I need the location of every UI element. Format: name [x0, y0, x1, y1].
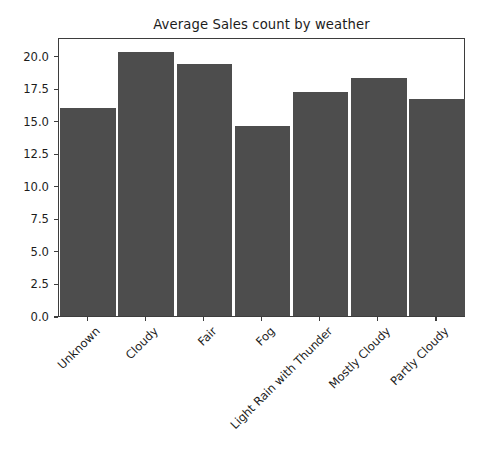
x-tick-label: Unknown — [55, 324, 103, 372]
x-tick-mark — [145, 317, 146, 321]
x-tick-mark — [319, 317, 320, 321]
x-tick-mark — [377, 317, 378, 321]
x-tick-mark — [87, 317, 88, 321]
chart-figure: Average Sales count by weather 0.02.55.0… — [0, 0, 486, 451]
x-tick-mark — [435, 317, 436, 321]
x-tick-mark — [203, 317, 204, 321]
x-tick-label: Light Rain with Thunder — [228, 324, 336, 432]
x-tick-label: Fog — [253, 324, 278, 349]
x-tick-label: Partly Cloudy — [388, 324, 452, 388]
x-tick-label: Mostly Cloudy — [326, 324, 393, 391]
x-tick-label: Cloudy — [123, 324, 161, 362]
x-axis: UnknownCloudyFairFogLight Rain with Thun… — [0, 0, 486, 451]
x-tick-label: Fair — [195, 324, 220, 349]
x-tick-mark — [261, 317, 262, 321]
